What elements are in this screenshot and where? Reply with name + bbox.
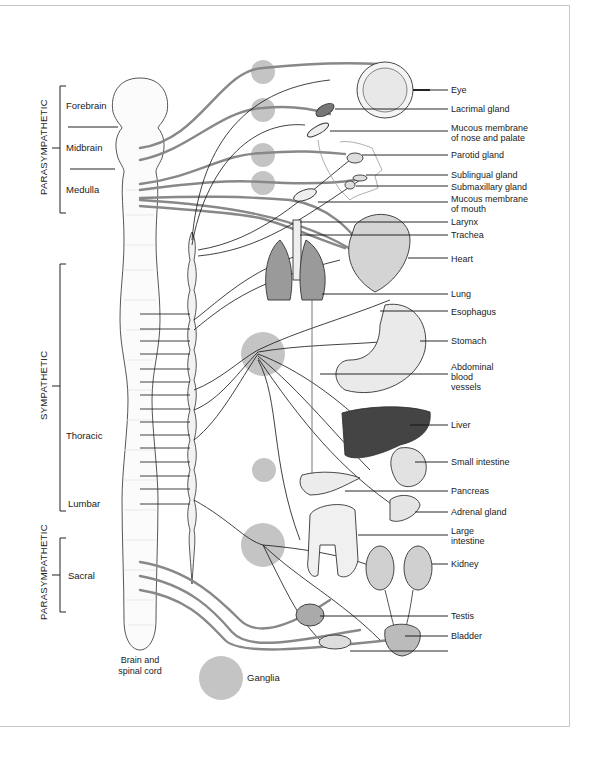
cns-caption-line2: spinal cord — [105, 666, 175, 677]
organ-label-mouth-mucosa-line2: of mouth — [451, 204, 528, 214]
organ-label-liver: Liver — [451, 420, 471, 430]
region-label-midbrain: Midbrain — [66, 142, 102, 153]
organ-label-nose-mucosa: Mucous membrane of nose and palate — [451, 123, 528, 143]
organ-label-abdominal-line2: blood — [451, 372, 494, 382]
organ-label-large-intestine: Large intestine — [451, 526, 485, 546]
organ-label-parotid-gland: Parotid gland — [451, 150, 504, 160]
organ-label-abdominal-blood-vessels: Abdominal blood vessels — [451, 362, 494, 392]
organ-label-mouth-mucosa-line1: Mucous membrane — [451, 194, 528, 204]
organ-label-kidney: Kidney — [451, 559, 479, 569]
legend-ganglia-label: Ganglia — [247, 673, 280, 683]
region-label-sacral: Sacral — [68, 570, 95, 581]
region-label-lumbar: Lumbar — [68, 498, 100, 509]
organ-label-sublingual-gland: Sublingual gland — [451, 170, 518, 180]
region-label-forebrain: Forebrain — [66, 100, 107, 111]
organ-label-abdominal-line1: Abdominal — [451, 362, 494, 372]
organ-label-lacrimal-gland: Lacrimal gland — [451, 104, 510, 114]
organ-label-lung: Lung — [451, 289, 471, 299]
division-label-parasympathetic-cranial: PARASYMPATHETIC — [38, 99, 49, 195]
organ-label-submaxillary-gland: Submaxillary gland — [451, 182, 527, 192]
organ-label-large-intestine-line2: intestine — [451, 536, 485, 546]
organ-label-larynx: Larynx — [451, 217, 478, 227]
division-brackets — [52, 86, 118, 612]
sacral-parasympathetic-fibers — [140, 562, 390, 649]
ganglia-legend-swatch — [199, 656, 243, 700]
organ-label-small-intestine: Small intestine — [451, 457, 510, 467]
sympathetic-chain — [188, 232, 197, 584]
organ-label-testis: Testis — [451, 611, 474, 621]
division-label-parasympathetic-sacral: PARASYMPATHETIC — [38, 524, 49, 620]
organ-label-trachea: Trachea — [451, 230, 484, 240]
division-label-sympathetic: SYMPATHETIC — [38, 351, 49, 420]
organ-label-pancreas: Pancreas — [451, 486, 489, 496]
organ-label-esophagus: Esophagus — [451, 307, 496, 317]
organ-label-mouth-mucosa: Mucous membrane of mouth — [451, 194, 528, 214]
organ-label-heart: Heart — [451, 254, 473, 264]
cns-caption: Brain and spinal cord — [105, 655, 175, 677]
organ-label-large-intestine-line1: Large — [451, 526, 485, 536]
region-label-medulla: Medulla — [66, 184, 99, 195]
cns-caption-line1: Brain and — [105, 655, 175, 666]
organ-label-bladder: Bladder — [451, 631, 482, 641]
region-label-thoracic: Thoracic — [66, 430, 102, 441]
brain-spinal-cord — [112, 78, 167, 650]
organ-label-nose-mucosa-line2: of nose and palate — [451, 133, 528, 143]
organ-label-abdominal-line3: vessels — [451, 382, 494, 392]
diagram-canvas — [0, 0, 597, 761]
organ-label-eye: Eye — [451, 85, 467, 95]
organ-label-adrenal-gland: Adrenal gland — [451, 507, 507, 517]
organ-label-stomach: Stomach — [451, 336, 487, 346]
organ-label-nose-mucosa-line1: Mucous membrane — [451, 123, 528, 133]
